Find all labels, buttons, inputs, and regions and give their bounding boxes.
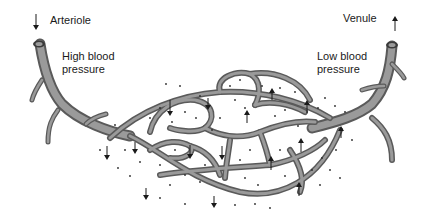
capillary-network <box>110 73 340 194</box>
arrow-down-icon <box>104 146 110 160</box>
high-pressure-line1: High blood <box>62 50 115 63</box>
capillary-bed-diagram: Arteriole High blood pressure Venule Low… <box>0 0 426 217</box>
arrow-down-icon <box>219 146 225 160</box>
arrow-down-icon <box>143 188 149 200</box>
arrow-down-icon <box>211 196 217 208</box>
low-pressure-line2: pressure <box>317 63 367 76</box>
low-blood-pressure-label: Low blood pressure <box>317 50 367 76</box>
arrow-down-icon <box>33 14 39 30</box>
capillary-network-drawing <box>0 0 426 217</box>
venule-label: Venule <box>343 12 377 25</box>
low-pressure-line1: Low blood <box>317 50 367 63</box>
arrow-up-icon <box>298 138 304 152</box>
high-pressure-line2: pressure <box>62 63 115 76</box>
arteriole-label: Arteriole <box>50 14 91 27</box>
high-blood-pressure-label: High blood pressure <box>62 50 115 76</box>
arrow-up-icon <box>392 16 398 31</box>
arrow-down-icon <box>132 142 138 154</box>
arrow-up-icon <box>244 110 250 123</box>
